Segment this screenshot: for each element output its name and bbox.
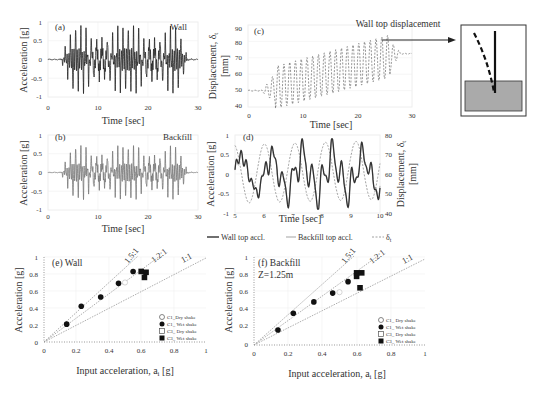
svg-text:10: 10 xyxy=(300,112,308,120)
panel-c-yticks: 90 80 70 60 50 40 xyxy=(235,25,243,110)
data-point xyxy=(337,290,342,295)
panel-a-title: Wall xyxy=(170,22,187,32)
data-point xyxy=(311,299,317,305)
panel-b-ylabel: Acceleration [g] xyxy=(18,140,29,205)
panel-f-xlabel: Input acceleration, ai [g] xyxy=(288,368,385,381)
svg-text:5: 5 xyxy=(233,212,237,220)
svg-text:1.5:1: 1.5:1 xyxy=(339,246,358,266)
svg-text:0: 0 xyxy=(42,347,46,355)
svg-text:0.4: 0.4 xyxy=(318,350,327,358)
panel-a-xticks: 0 10 20 30 xyxy=(46,104,202,112)
data-point xyxy=(130,269,136,275)
data-point xyxy=(78,304,84,310)
data-point xyxy=(122,280,127,285)
svg-text:10: 10 xyxy=(95,104,103,112)
arrow-right-icon xyxy=(448,37,456,43)
panel-b-title: Backfill xyxy=(163,132,192,142)
panel-d-legend: Wall top accl. Backfill top accl. δt xyxy=(207,233,392,243)
svg-text:1.2:1: 1.2:1 xyxy=(149,246,169,265)
svg-text:C1_ Wet shake: C1_ Wet shake xyxy=(386,325,417,330)
svg-text:0: 0 xyxy=(247,112,251,120)
panel-c-plot-area xyxy=(248,25,412,107)
svg-text:0.4: 0.4 xyxy=(29,305,38,313)
svg-text:0: 0 xyxy=(226,171,230,179)
svg-text:20: 20 xyxy=(145,213,153,221)
svg-text:9: 9 xyxy=(349,212,353,220)
panel-e-xlabel: Input acceleration, ai [g] xyxy=(76,365,173,378)
svg-text:1: 1 xyxy=(245,254,249,262)
panel-a: 1 0.5 0 -0.5 -1 0 10 20 30 (a) Wall Time… xyxy=(18,19,202,126)
data-point xyxy=(98,294,104,300)
data-point xyxy=(64,321,70,327)
svg-text:1:1: 1:1 xyxy=(179,251,193,265)
panel-b-xticks: 0 10 20 30 xyxy=(46,213,202,221)
svg-text:1.5:1: 1.5:1 xyxy=(122,246,141,266)
panel-b-xlabel: Time [sec] xyxy=(102,223,145,234)
svg-text:-1: -1 xyxy=(36,206,42,214)
svg-text:0.2: 0.2 xyxy=(72,347,81,355)
panel-f-ratio-labels: 1.5:1 1.2:1 1:1 xyxy=(339,246,415,266)
svg-text:10: 10 xyxy=(377,212,385,220)
svg-text:0: 0 xyxy=(46,213,50,221)
svg-text:60: 60 xyxy=(385,171,393,179)
svg-text:1: 1 xyxy=(423,350,427,358)
svg-text:Backfill top accl.: Backfill top accl. xyxy=(298,233,353,242)
svg-text:1.2:1: 1.2:1 xyxy=(367,247,387,266)
svg-text:0.6: 0.6 xyxy=(353,350,362,358)
panel-f-label: (f) Backfill xyxy=(258,258,301,269)
svg-text:-0.5: -0.5 xyxy=(31,188,43,196)
svg-text:50: 50 xyxy=(235,86,243,94)
data-point xyxy=(354,274,360,280)
panel-f-yticks: 1 0.8 0.6 0.4 0.2 0 xyxy=(239,254,248,349)
svg-text:40: 40 xyxy=(235,102,243,110)
data-point xyxy=(345,279,351,285)
svg-text:80: 80 xyxy=(385,132,393,140)
svg-text:0.6: 0.6 xyxy=(137,347,146,355)
data-point xyxy=(291,311,297,317)
svg-text:-0.5: -0.5 xyxy=(31,75,43,83)
svg-text:0.8: 0.8 xyxy=(29,271,38,279)
svg-text:0.2: 0.2 xyxy=(29,322,38,330)
svg-text:1:1: 1:1 xyxy=(400,252,414,266)
svg-text:6: 6 xyxy=(262,212,266,220)
panel-e-data-points xyxy=(64,269,149,327)
svg-text:0: 0 xyxy=(39,56,43,64)
panel-f-ylabel: Acceleration [g] xyxy=(223,267,234,332)
svg-text:0: 0 xyxy=(252,350,256,358)
panel-d-label: (d) xyxy=(243,132,254,142)
svg-text:1: 1 xyxy=(226,132,230,140)
svg-text:1: 1 xyxy=(39,132,43,140)
data-point xyxy=(330,290,336,296)
svg-text:-1: -1 xyxy=(223,210,229,218)
svg-text:30: 30 xyxy=(409,112,417,120)
svg-text:0: 0 xyxy=(46,104,50,112)
svg-text:0.5: 0.5 xyxy=(33,150,42,158)
svg-text:0.6: 0.6 xyxy=(29,288,38,296)
panel-e: 1 0.8 0.6 0.4 0.2 0 0 0.2 0.4 0.6 0.8 1 … xyxy=(13,246,208,378)
svg-text:Wall top accl.: Wall top accl. xyxy=(221,233,265,242)
svg-text:-1: -1 xyxy=(36,93,42,101)
wall-top-displacement-annotation: Wall top displacement xyxy=(356,19,441,29)
panel-e-ratio-labels: 1.5:1 1.2:1 1:1 xyxy=(122,246,194,266)
panel-d-yticks-right: 80 70 60 50 40 xyxy=(385,132,393,218)
svg-text:C3_ Dry shake: C3_ Dry shake xyxy=(167,329,198,334)
panel-a-yticks: 1 0.5 0 -0.5 -1 xyxy=(31,19,43,101)
panel-c-label: (c) xyxy=(254,26,264,36)
panel-f-legend: C1_ Dry shake C1_ Wet shake C3_ Dry shak… xyxy=(379,318,417,345)
panel-e-yticks: 1 0.8 0.6 0.4 0.2 0 xyxy=(29,254,38,347)
svg-text:10: 10 xyxy=(95,213,103,221)
svg-text:0.2: 0.2 xyxy=(284,350,293,358)
svg-text:0.6: 0.6 xyxy=(239,288,248,296)
panel-f-sublabel: Z=1.25m xyxy=(258,270,294,280)
panel-e-label: (e) Wall xyxy=(52,258,83,269)
panel-a-wall-accel-series xyxy=(48,26,198,94)
data-point xyxy=(359,270,365,276)
svg-text:30: 30 xyxy=(195,104,203,112)
data-point xyxy=(357,285,363,291)
svg-text:C3_ Wet shake: C3_ Wet shake xyxy=(167,336,198,341)
svg-text:0.5: 0.5 xyxy=(33,37,42,45)
data-point xyxy=(143,270,149,276)
svg-text:C1_ Wet shake: C1_ Wet shake xyxy=(167,322,198,327)
panel-a-ylabel: Acceleration [g] xyxy=(18,27,29,92)
panel-f-xticks: 0 0.2 0.4 0.6 0.8 1 xyxy=(252,350,427,358)
